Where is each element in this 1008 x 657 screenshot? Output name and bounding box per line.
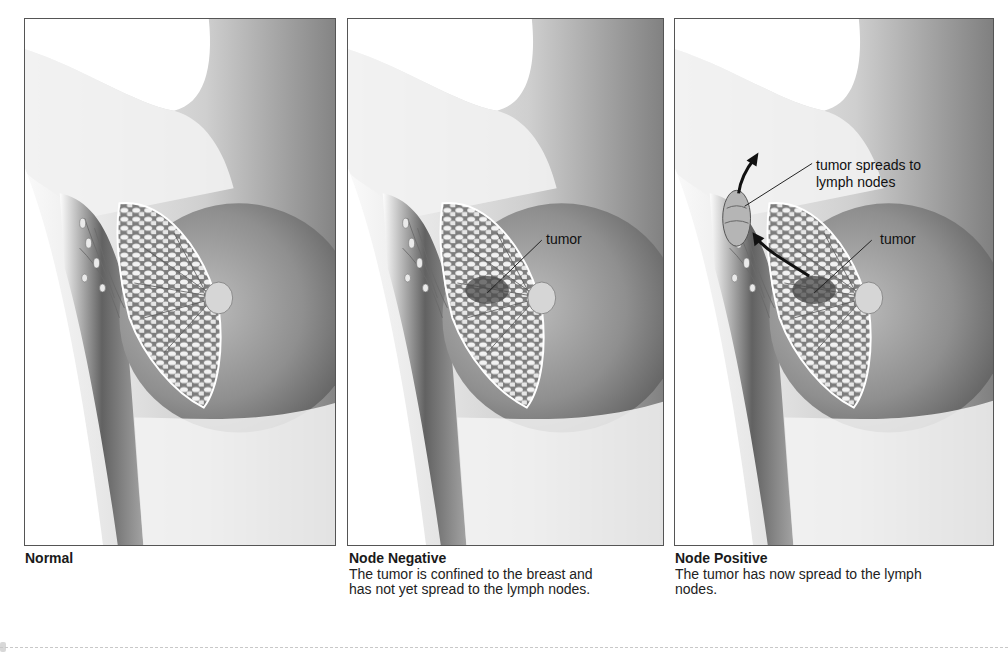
breast-node-positive-illustration [675,19,993,545]
caption-title: Node Positive [675,551,975,567]
tumor-mass [792,276,836,304]
tumor-label: tumor [880,231,916,247]
lymph-spread-label-line1: tumor spreads to [816,157,921,173]
illustration-panel-normal [24,18,336,546]
caption-node-positive: Node Positive The tumor has now spread t… [675,551,975,598]
tumor-label: tumor [546,231,582,247]
lymph-spread-label-line2: lymph nodes [816,174,895,190]
bottom-divider [0,647,1008,648]
illustration-panel-node-positive: tumor spreads to lymph nodes tumor [674,18,994,546]
breast-normal-illustration [25,19,335,545]
caption-normal: Normal [25,551,325,567]
illustration-panel-node-negative: tumor [347,18,664,546]
tumor-mass [465,276,509,304]
caption-description: The tumor is confined to the breast and … [349,567,614,598]
caption-description: The tumor has now spread to the lymph no… [675,567,925,598]
breast-node-negative-illustration [348,19,663,545]
caption-node-negative: Node Negative The tumor is confined to t… [349,551,649,598]
caption-title: Normal [25,551,325,567]
enlarged-lymph-node [723,190,751,246]
caption-title: Node Negative [349,551,649,567]
